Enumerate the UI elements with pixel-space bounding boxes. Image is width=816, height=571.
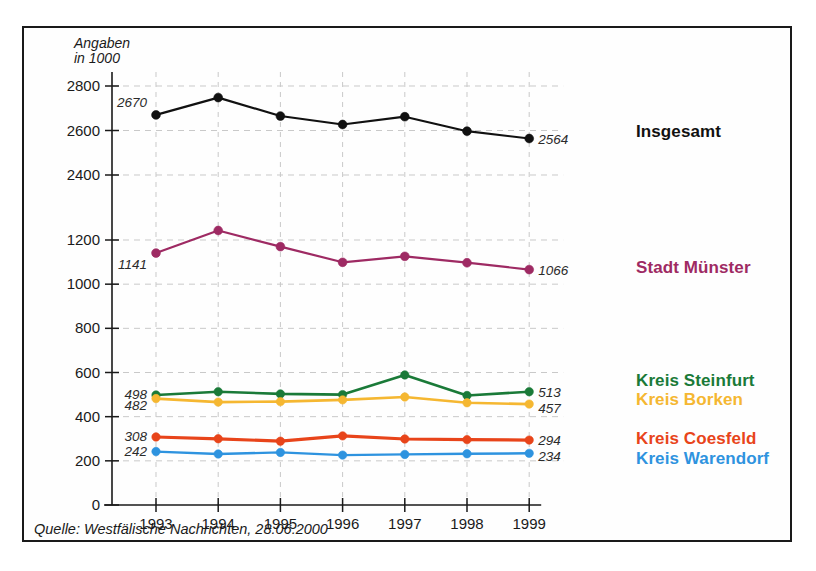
tick-labels-group: 2400260028000200400600800100012001993199… bbox=[67, 77, 546, 532]
data-point-coesfeld-1993 bbox=[152, 433, 160, 441]
data-point-warendorf-1997 bbox=[401, 450, 409, 458]
y-axis-tick-label: 2400 bbox=[67, 166, 100, 183]
y-axis-tick-label: 400 bbox=[75, 408, 100, 425]
start-value-label-muenster: 1141 bbox=[118, 257, 147, 272]
series-warendorf bbox=[152, 447, 534, 459]
data-point-coesfeld-1997 bbox=[401, 435, 409, 443]
y-axis-tick-label: 1000 bbox=[67, 275, 100, 292]
data-point-muenster-1999 bbox=[525, 265, 534, 274]
end-value-label-coesfeld: 294 bbox=[537, 433, 561, 448]
data-point-muenster-1997 bbox=[400, 252, 409, 261]
start-value-label-insgesamt: 2670 bbox=[116, 95, 148, 110]
data-point-insgesamt-1998 bbox=[463, 127, 472, 136]
end-value-label-warendorf: 234 bbox=[537, 449, 561, 464]
data-point-steinfurt-1995 bbox=[276, 390, 284, 398]
line-chart-plot: 2670256411411066498513482457308294242234… bbox=[0, 0, 816, 571]
source-note: Quelle: Westfälische Nachrichten, 28.06.… bbox=[34, 521, 328, 537]
x-axis-tick-label: 1997 bbox=[388, 515, 421, 532]
end-value-label-steinfurt: 513 bbox=[538, 385, 561, 400]
x-axis-tick-label: 1998 bbox=[450, 515, 483, 532]
data-point-insgesamt-1996 bbox=[338, 120, 347, 129]
data-point-warendorf-1998 bbox=[463, 450, 471, 458]
data-point-coesfeld-1999 bbox=[525, 436, 533, 444]
data-point-muenster-1993 bbox=[152, 249, 161, 258]
legend-label-muenster: Stadt Münster bbox=[636, 258, 751, 278]
end-value-label-borken: 457 bbox=[538, 401, 561, 416]
data-point-warendorf-1999 bbox=[525, 449, 533, 457]
data-point-warendorf-1995 bbox=[276, 448, 284, 456]
y-axis-tick-label: 600 bbox=[75, 364, 100, 381]
end-value-label-muenster: 1066 bbox=[538, 263, 569, 278]
data-point-insgesamt-1993 bbox=[152, 111, 161, 120]
start-value-label-warendorf: 242 bbox=[123, 444, 147, 459]
data-point-muenster-1996 bbox=[338, 258, 347, 267]
data-point-coesfeld-1994 bbox=[214, 435, 222, 443]
y-axis-tick-label: 1200 bbox=[67, 231, 100, 248]
end-value-label-insgesamt: 2564 bbox=[537, 132, 568, 147]
data-point-borken-1998 bbox=[463, 399, 471, 407]
start-value-label-coesfeld: 308 bbox=[124, 429, 147, 444]
data-point-coesfeld-1998 bbox=[463, 435, 471, 443]
legend-label-warendorf: Kreis Warendorf bbox=[636, 449, 769, 469]
data-point-insgesamt-1997 bbox=[400, 112, 409, 121]
data-point-warendorf-1996 bbox=[338, 451, 346, 459]
y-axis-tick-label: 0 bbox=[92, 496, 100, 513]
legend-label-insgesamt: Insgesamt bbox=[636, 122, 721, 142]
y-axis-tick-label: 2800 bbox=[67, 77, 100, 94]
data-point-muenster-1995 bbox=[276, 242, 285, 251]
data-point-borken-1993 bbox=[152, 394, 160, 402]
axis-group bbox=[104, 72, 541, 512]
chart-screenshot: Angaben in 1000 267025641141106649851348… bbox=[0, 0, 816, 571]
data-point-borken-1999 bbox=[525, 400, 533, 408]
y-axis-tick-label: 200 bbox=[75, 452, 100, 469]
x-axis-tick-label: 1996 bbox=[326, 515, 359, 532]
value-labels-group: 2670256411411066498513482457308294242234 bbox=[116, 95, 569, 464]
data-point-muenster-1998 bbox=[463, 258, 472, 267]
data-point-borken-1997 bbox=[401, 393, 409, 401]
data-point-borken-1996 bbox=[338, 396, 346, 404]
data-point-borken-1994 bbox=[214, 398, 222, 406]
data-point-steinfurt-1999 bbox=[525, 388, 533, 396]
y-axis-tick-label: 800 bbox=[75, 319, 100, 336]
data-point-steinfurt-1997 bbox=[401, 371, 409, 379]
data-point-coesfeld-1995 bbox=[276, 437, 284, 445]
data-point-borken-1995 bbox=[276, 397, 284, 405]
data-point-steinfurt-1994 bbox=[214, 388, 222, 396]
data-point-warendorf-1993 bbox=[152, 447, 160, 455]
data-point-insgesamt-1999 bbox=[525, 134, 534, 143]
data-point-insgesamt-1995 bbox=[276, 112, 285, 121]
data-point-warendorf-1994 bbox=[214, 450, 222, 458]
x-axis-tick-label: 1999 bbox=[513, 515, 546, 532]
legend-label-coesfeld: Kreis Coesfeld bbox=[636, 429, 756, 449]
legend-label-borken: Kreis Borken bbox=[636, 390, 743, 410]
data-point-insgesamt-1994 bbox=[214, 93, 223, 102]
data-point-muenster-1994 bbox=[214, 226, 223, 235]
start-value-label-borken: 482 bbox=[124, 398, 147, 413]
data-point-coesfeld-1996 bbox=[338, 432, 346, 440]
y-axis-tick-label: 2600 bbox=[67, 122, 100, 139]
legend-label-steinfurt: Kreis Steinfurt bbox=[636, 371, 755, 391]
